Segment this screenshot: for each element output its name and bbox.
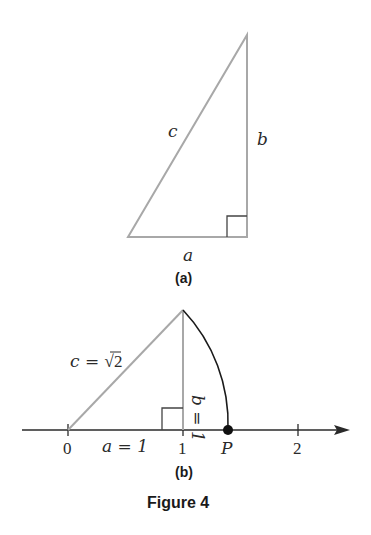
side-b-label: b <box>257 129 268 149</box>
figure-canvas: c b a (a) c = √2 b = 1 0 a = 1 1 P 2 (b)… <box>0 0 371 535</box>
vertical-side-label: b = 1 <box>188 395 208 442</box>
tick-label-2: 2 <box>293 439 302 458</box>
right-angle-marker-b <box>162 408 183 430</box>
hypotenuse-label: c = √2 <box>70 351 122 371</box>
right-triangle-a <box>128 35 247 237</box>
panel-a-label: (a) <box>175 270 192 286</box>
side-a-label: a <box>183 245 193 265</box>
panel-b-label: (b) <box>175 464 193 480</box>
tick-label-1: 1 <box>178 439 187 458</box>
point-p-label: P <box>220 438 233 458</box>
base-label: a = 1 <box>102 436 148 456</box>
right-angle-marker-a <box>227 216 247 237</box>
figure-caption: Figure 4 <box>147 494 209 511</box>
tick-label-0: 0 <box>63 439 72 458</box>
panel-a: c b a (a) <box>128 35 268 286</box>
panel-b: c = √2 b = 1 0 a = 1 1 P 2 (b) <box>22 310 350 480</box>
point-p <box>223 425 233 435</box>
side-c-label: c <box>168 121 178 141</box>
